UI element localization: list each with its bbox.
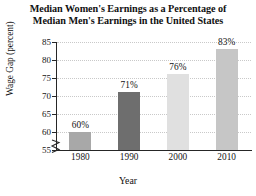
x-axis-tick-label: 2010 [217,153,236,162]
x-axis-tick-label: 1990 [120,153,139,162]
y-axis-tick-label: 80 [42,56,51,65]
bar-value-label: 76% [169,63,186,72]
y-axis-tick-label: 75 [42,74,51,83]
x-axis-line [56,150,252,151]
chart-title-line-1: Median Women's Earnings as a Percentage … [0,3,256,15]
y-axis-title: Wage Gap (percent) [5,21,15,96]
y-axis-tick [52,60,56,61]
x-axis-tick-label: 1980 [71,153,90,162]
y-axis-tick [52,42,56,43]
y-axis-tick-label: 55 [42,146,51,155]
y-axis-tick-label: 60 [42,128,51,137]
y-axis-tick [52,132,56,133]
bar: 71% [118,92,140,150]
bar-value-label: 60% [72,121,89,130]
bar-value-label: 83% [218,38,235,47]
bar: 83% [216,49,238,150]
chart-figure: Median Women's Earnings as a Percentage … [0,0,256,196]
plot-area: 55606570758085 60%71%76%83% 198019902000… [56,42,251,150]
y-axis-tick [52,78,56,79]
bar-value-label: 71% [121,81,138,90]
y-axis-tick-label: 70 [42,92,51,101]
y-axis-tick-label: 85 [42,38,51,47]
y-axis-tick [52,150,56,151]
chart-title: Median Women's Earnings as a Percentage … [0,3,256,26]
y-axis-tick-label: 65 [42,110,51,119]
x-axis-tick-label: 2000 [169,153,188,162]
x-axis-title: Year [0,175,256,186]
bar: 60% [69,132,91,150]
y-axis-tick [52,114,56,115]
chart-title-line-2: Median Men's Earnings in the United Stat… [0,15,256,27]
bar: 76% [167,74,189,150]
y-axis-tick [52,96,56,97]
